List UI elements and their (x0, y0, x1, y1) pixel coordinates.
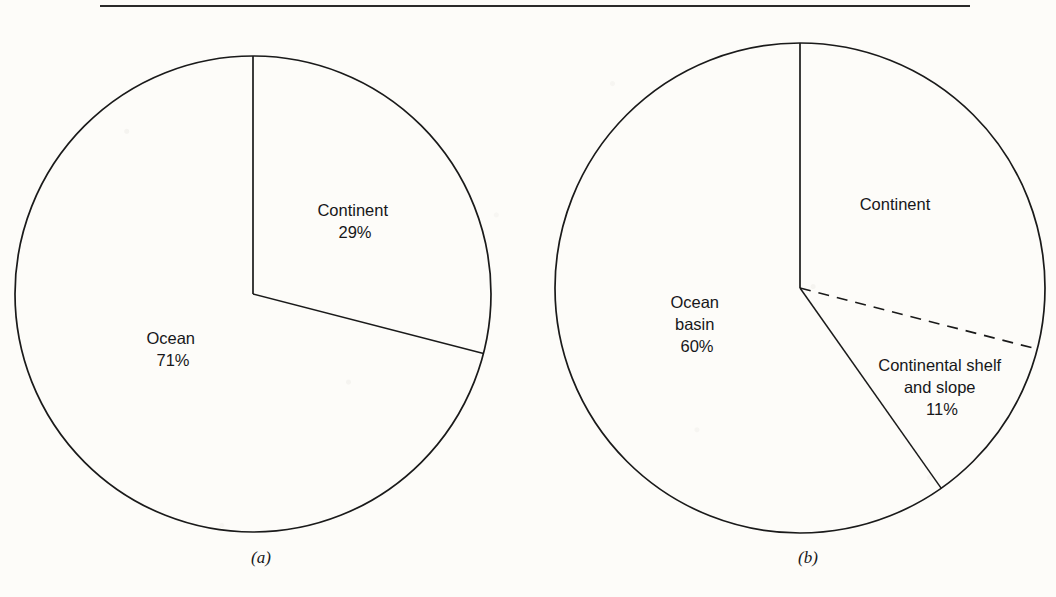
pie-b-label-ocean-basin: Ocean basin 60% (670, 293, 723, 355)
pie-b-shelf-line2: and slope (904, 378, 976, 396)
pie-a-continent-line1: Continent (317, 201, 388, 219)
pie-a-caption: (a) (251, 548, 271, 567)
pie-chart-b: Continent Ocean basin 60% Continental sh… (555, 43, 1045, 567)
pie-a-label-ocean: Ocean 71% (146, 329, 199, 369)
pie-a-ocean-line2: 71% (156, 351, 189, 369)
pie-a-divider-continent-end (253, 294, 484, 353)
pie-a-label-continent: Continent 29% (317, 201, 392, 241)
pie-b-shelf-line3: 11% (926, 400, 958, 418)
figure-page: Continent 29% Ocean 71% (a) Continent (0, 0, 1056, 597)
pie-b-label-continent: Continent (860, 195, 931, 213)
pie-b-ocean-line3: 60% (680, 337, 713, 355)
pie-chart-a: Continent 29% Ocean 71% (a) (15, 56, 491, 567)
two-pie-charts-figure: Continent 29% Ocean 71% (a) Continent (0, 0, 1056, 597)
pie-a-continent-line2: 29% (338, 223, 371, 241)
pie-b-divider-continent-shelf-dashed (800, 288, 1037, 349)
pie-b-ocean-line1: Ocean (670, 293, 719, 311)
pie-b-shelf-line1: Continental shelf (878, 356, 1001, 374)
pie-b-label-shelf-slope: Continental shelf and slope 11% (878, 356, 1006, 418)
pie-b-caption: (b) (798, 548, 818, 567)
pie-b-ocean-line2: basin (675, 315, 714, 333)
pie-a-ocean-line1: Ocean (146, 329, 195, 347)
pie-b-continent-line1: Continent (860, 195, 931, 213)
